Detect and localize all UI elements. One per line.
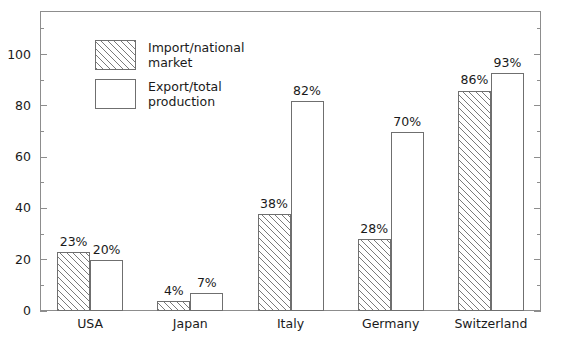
legend-item-import: Import/national market [95,40,244,70]
bar-value-italy-export: 82% [282,83,333,98]
y-tick-label-40: 40 [0,200,31,215]
bar-value-germany-import: 28% [349,221,400,236]
bar-value-japan-export: 7% [181,275,232,290]
x-label-switzerland: Switzerland [436,316,546,331]
legend-label-import: Import/national market [148,40,244,70]
bar-value-germany-export: 70% [382,114,433,129]
legend: Import/national market Export/total prod… [95,40,244,118]
y-tick-label-80: 80 [0,98,31,113]
legend-item-export: Export/total production [95,79,244,109]
legend-swatch-open [95,79,136,109]
bar-value-switzerland-import: 86% [449,72,500,87]
y-tick-label-0: 0 [0,303,31,318]
bar-germany-import [358,239,391,311]
y-tick-label-20: 20 [0,252,31,267]
legend-swatch-hatched [95,40,136,70]
chart-figure: 020406080100 USAJapanItalyGermanySwitzer… [0,0,564,339]
legend-label-export: Export/total production [148,79,222,109]
bar-japan-import [157,301,190,311]
x-label-germany: Germany [336,316,446,331]
bar-value-italy-import: 38% [249,196,300,211]
bar-usa-import [57,252,90,311]
y-tick-label-60: 60 [0,149,31,164]
bar-usa-export [90,260,123,311]
bar-switzerland-export [491,73,524,311]
bar-italy-import [258,214,291,311]
x-label-italy: Italy [236,316,346,331]
bar-switzerland-import [458,91,491,312]
bar-value-switzerland-export: 93% [482,55,533,70]
bar-value-usa-export: 20% [81,242,132,257]
x-label-usa: USA [35,316,145,331]
y-tick-label-100: 100 [0,47,31,62]
x-label-japan: Japan [135,316,245,331]
